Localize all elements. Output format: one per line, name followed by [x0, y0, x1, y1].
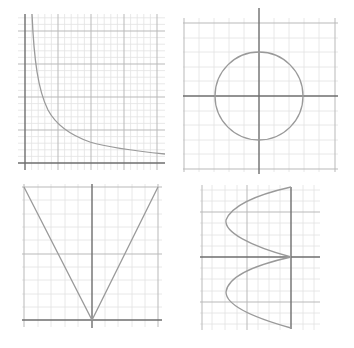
graph-absolute-value — [22, 184, 162, 328]
graph-sideways-sine — [200, 185, 320, 330]
graph-reciprocal — [18, 14, 165, 170]
graphs-canvas — [0, 0, 354, 348]
axes — [183, 8, 338, 174]
axes — [22, 184, 162, 328]
graph-circle — [183, 8, 338, 174]
major-grid — [183, 18, 338, 172]
axes — [200, 187, 320, 329]
minor-grid — [183, 18, 338, 172]
